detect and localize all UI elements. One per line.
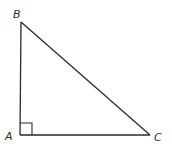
triangle-diagram: B A C	[0, 0, 172, 147]
vertex-label-a: A	[4, 130, 13, 143]
vertex-label-b: B	[13, 8, 21, 21]
vertex-label-c: C	[154, 131, 162, 144]
background	[0, 0, 172, 147]
